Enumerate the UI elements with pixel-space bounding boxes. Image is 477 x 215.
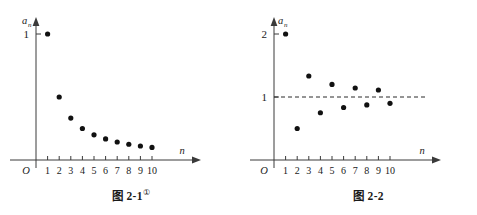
figure-2-2: annO1234567891021 图 2-2 [240,0,477,215]
data-point [353,85,358,90]
x-tick-label: 10 [385,165,395,176]
figure-caption-2-1: 图 2-1① [22,187,240,203]
origin-label: O [22,165,30,176]
x-tick-label: 3 [68,165,73,176]
data-point [329,82,334,87]
x-axis-arrowhead [192,157,201,164]
x-tick-label: 8 [364,165,369,176]
y-tick-label: 1 [24,28,30,40]
plot-area-fig-2-1: annO123456789101 [0,0,240,200]
data-point [68,115,73,120]
x-tick-label: 10 [147,165,157,176]
x-tick-label: 9 [138,165,143,176]
caption-text: 图 2-1 [112,190,143,202]
y-axis-label: a [278,15,283,26]
x-tick-label: 4 [318,165,323,176]
x-tick-label: 2 [295,165,300,176]
data-point [295,126,300,131]
data-point [341,105,346,110]
data-point [364,102,369,107]
data-point [306,73,311,78]
x-tick-label: 7 [115,165,120,176]
y-axis-label-subscript: n [284,21,288,29]
caption-footnote-mark: ① [143,188,150,197]
x-tick-label: 8 [126,165,131,176]
data-point [115,139,120,144]
plot-area-fig-2-2: annO1234567891021 [240,0,477,200]
data-point [103,136,108,141]
x-axis-label: n [179,145,184,156]
x-tick-label: 7 [353,165,358,176]
x-tick-label: 6 [103,165,108,176]
data-point [283,31,288,36]
data-point [80,126,85,131]
y-axis-label: a [22,15,27,26]
x-tick-label: 2 [57,165,62,176]
data-point [57,94,62,99]
data-point [318,110,323,115]
y-axis-arrowhead [271,17,278,26]
x-tick-label: 4 [80,165,85,176]
y-tick-label: 1 [262,91,268,103]
x-axis-arrowhead [432,157,441,164]
x-axis-label: n [419,145,424,156]
data-point [126,142,131,147]
figure-caption-2-2: 图 2-2 [260,187,477,203]
caption-text: 图 2-2 [353,190,384,202]
x-tick-label: 5 [330,165,335,176]
x-tick-label: 6 [341,165,346,176]
x-tick-label: 3 [306,165,311,176]
data-point [45,31,50,36]
x-tick-label: 9 [376,165,381,176]
data-point [138,143,143,148]
y-tick-label: 2 [262,28,268,40]
data-point [376,87,381,92]
y-axis-arrowhead [33,17,40,26]
data-point [149,145,154,150]
x-tick-label: 1 [45,165,50,176]
figure-row: annO123456789101 图 2-1① annO123456789102… [0,0,477,215]
figure-2-1: annO123456789101 图 2-1① [0,0,240,215]
x-tick-label: 1 [283,165,288,176]
data-point [387,101,392,106]
x-tick-label: 5 [92,165,97,176]
origin-label: O [260,165,268,176]
data-point [91,132,96,137]
